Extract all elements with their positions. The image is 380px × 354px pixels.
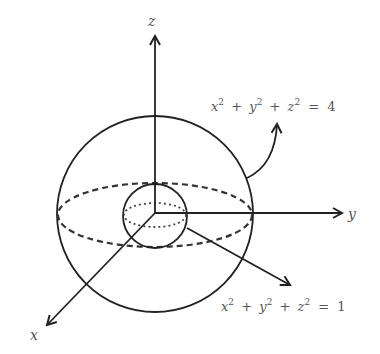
x-axis — [47, 213, 155, 325]
eq-outer-z: z — [287, 99, 295, 114]
y-axis-label: y — [347, 206, 357, 222]
inner-sphere-pointer-arrow — [187, 228, 290, 285]
eq-inner-z: z — [297, 299, 305, 314]
sphere-diagram: z y x x2 + y2 + z2 = 4 x2 + y2 + z2 = 1 — [0, 0, 380, 354]
eq-inner-y-exp: 2 — [267, 297, 273, 307]
eq-outer-x-exp: 2 — [218, 97, 224, 107]
eq-inner-x-exp: 2 — [228, 297, 234, 307]
eq-inner-equals: = — [318, 299, 329, 314]
eq-inner-plus-2: + — [280, 299, 291, 314]
eq-inner-z-exp: 2 — [304, 297, 310, 307]
z-axis-label: z — [147, 13, 156, 29]
eq-outer-y-exp: 2 — [257, 97, 263, 107]
eq-inner-plus-1: + — [241, 299, 252, 314]
outer-sphere-equation: x2 + y2 + z2 = 4 — [211, 93, 336, 114]
eq-outer-z-exp: 2 — [294, 97, 300, 107]
outer-sphere-pointer-arrow — [247, 124, 277, 178]
eq-inner-rhs: 1 — [337, 299, 345, 314]
inner-sphere-equation: x2 + y2 + z2 = 1 — [221, 293, 346, 314]
x-axis-label: x — [30, 327, 38, 343]
eq-outer-rhs: 4 — [327, 99, 335, 114]
eq-outer-plus-1: + — [231, 99, 242, 114]
eq-outer-plus-2: + — [270, 99, 281, 114]
eq-outer-equals: = — [308, 99, 319, 114]
